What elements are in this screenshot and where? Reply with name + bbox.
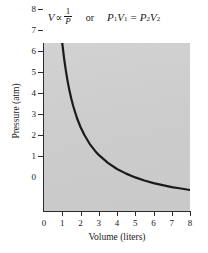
- x-tick-label-2: 2: [75, 218, 87, 228]
- y-tick-label-7: 7: [22, 26, 36, 35]
- x-tick-4: [117, 212, 118, 216]
- equation-p1-subscript: 1: [114, 15, 118, 23]
- x-tick-3: [99, 212, 100, 216]
- fraction-denominator: P: [64, 17, 72, 26]
- equation-connector-or: or: [86, 12, 94, 23]
- y-tick-8: [38, 9, 43, 10]
- y-axis-title: Pressure (atm): [11, 66, 21, 156]
- x-axis-title: Volume (liters): [44, 232, 190, 242]
- x-tick-label-8: 8: [184, 218, 196, 228]
- y-tick-label-3: 3: [22, 110, 36, 119]
- x-tick-label-0: 0: [38, 218, 50, 228]
- x-tick-7: [172, 212, 173, 216]
- x-tick-label-5: 5: [129, 218, 141, 228]
- equation-boyles-law: P1V1 = P2V2: [107, 11, 160, 23]
- y-tick-2: [38, 135, 43, 136]
- y-tick-4: [38, 93, 43, 94]
- x-tick-label-7: 7: [166, 218, 178, 228]
- y-tick-label-8: 8: [22, 5, 36, 14]
- y-tick-5: [38, 72, 43, 73]
- pressure-volume-chart: 012345678 012345678 Pressure (atm) Volum…: [0, 34, 208, 253]
- equation-variable-v: V: [48, 11, 55, 23]
- y-tick-label-2: 2: [22, 131, 36, 140]
- equation-v2: V: [150, 11, 157, 23]
- y-tick-3: [38, 114, 43, 115]
- y-tick-7: [38, 30, 43, 31]
- x-tick-5: [135, 212, 136, 216]
- equation-v1-subscript: 1: [124, 15, 128, 23]
- x-tick-label-3: 3: [93, 218, 105, 228]
- x-tick-label-6: 6: [148, 218, 160, 228]
- equation-v2-subscript: 2: [157, 15, 161, 23]
- x-tick-8: [190, 212, 191, 216]
- x-tick-label-1: 1: [56, 218, 68, 228]
- equation-proportionality: V ∝ 1 P: [48, 8, 73, 27]
- equation-p1: P: [107, 11, 114, 23]
- pressure-volume-curve: [44, 43, 190, 211]
- x-tick-label-4: 4: [111, 218, 123, 228]
- fraction-numerator: 1: [65, 7, 72, 16]
- y-tick-6: [38, 51, 43, 52]
- x-tick-6: [154, 212, 155, 216]
- fraction-one-over-p: 1 P: [64, 7, 72, 26]
- y-tick-label-0: 0: [22, 173, 36, 182]
- equation-p2: P: [140, 11, 147, 23]
- proportional-to-symbol: ∝: [55, 12, 62, 23]
- equation-v1: V: [117, 11, 124, 23]
- x-tick-1: [62, 212, 63, 216]
- x-tick-2: [81, 212, 82, 216]
- y-tick-label-6: 6: [22, 47, 36, 56]
- y-tick-label-5: 5: [22, 68, 36, 77]
- curve-path: [62, 43, 190, 190]
- y-tick-1: [38, 156, 43, 157]
- equation-p2-subscript: 2: [147, 15, 151, 23]
- y-tick-label-4: 4: [22, 89, 36, 98]
- equation-equals-sign: =: [131, 11, 137, 23]
- y-tick-label-1: 1: [22, 152, 36, 161]
